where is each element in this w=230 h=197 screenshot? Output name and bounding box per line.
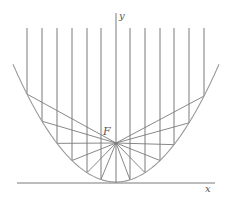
focus-label: F — [102, 125, 111, 138]
parabola-reflection-diagram: y x F — [0, 0, 230, 197]
reflected-ray — [116, 143, 130, 180]
x-axis-label: x — [205, 183, 211, 194]
y-axis-label: y — [118, 10, 125, 21]
reflected-ray — [116, 143, 160, 161]
